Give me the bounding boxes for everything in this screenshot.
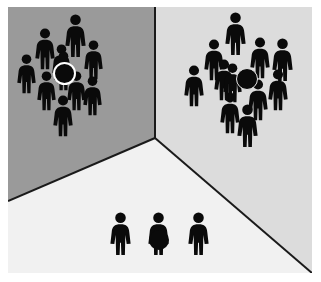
- highlight-marker-circle[interactable]: [236, 68, 258, 90]
- person-figure: [16, 54, 37, 94]
- highlight-marker-circle[interactable]: [149, 230, 169, 250]
- room-scene: [8, 7, 312, 273]
- highlight-marker-circle[interactable]: [53, 62, 76, 85]
- person-figure: [52, 95, 74, 137]
- illustration-stage: A three-dimensional room corner rendered…: [0, 0, 321, 282]
- scene-alt-text: A three-dimensional room corner rendered…: [0, 16, 1, 17]
- person-figure: [187, 212, 210, 256]
- person-figure: [267, 69, 289, 111]
- person-figure: [183, 65, 205, 107]
- person-figure: [82, 76, 103, 116]
- person-figure: [224, 12, 247, 56]
- person-figure: [236, 104, 259, 148]
- person-figure: [109, 212, 132, 256]
